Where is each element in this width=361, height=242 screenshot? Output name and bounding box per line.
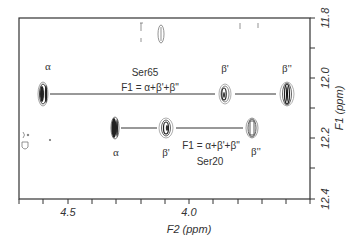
ser65-formula: F1 = α+β'+β" [121,82,179,93]
ser20-beta1-label: β' [162,146,170,158]
ser65-beta1-peak [219,84,231,104]
ser20-beta1-peak [159,118,173,138]
ser20-beta2-label: β" [251,145,261,157]
x-axis-ticks [19,199,310,204]
ser65-beta2-peak [280,82,294,106]
nmr-spectrum-plot: 4.5 4.0 F2 (ppm) 11.8 12.0 12.2 12.4 F1 … [0,0,361,242]
ser65-beta2-label: β" [282,62,292,74]
ser20-formula: F1 = α+β'+β" [182,140,240,151]
ser20-label: Ser20 [197,156,224,167]
y-tick-12.4: 12.4 [319,188,331,209]
x-axis-label: F2 (ppm) [167,223,212,235]
y-tick-11.8: 11.8 [319,7,331,28]
x-tick-4.0: 4.0 [181,206,197,218]
ser20-beta2-peak [246,118,258,138]
plot-frame [19,18,310,199]
ser20-alpha-peak [111,117,119,139]
x-tick-4.5: 4.5 [60,206,76,218]
y-axis-label: F1 (ppm) [333,85,345,130]
ser65-alpha-label: α [45,60,51,72]
ser65-label: Ser65 [132,67,159,78]
ser65-beta1-label: β' [221,62,229,74]
ser20-alpha-label: α [113,146,119,158]
y-tick-12.0: 12.0 [319,66,331,88]
y-axis-ticks [310,18,315,199]
ser65-alpha-peak [38,82,48,106]
y-tick-12.2: 12.2 [319,127,331,148]
